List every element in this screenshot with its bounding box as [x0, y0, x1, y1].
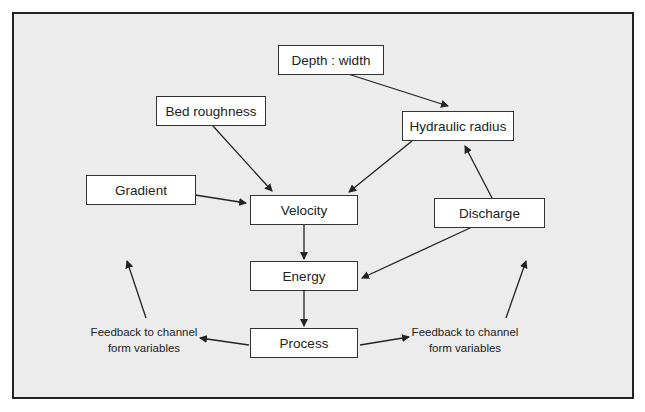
- arrow-gradient-to-velocity: [195, 195, 246, 203]
- node-discharge: Discharge: [434, 198, 545, 228]
- node-bed-roughness: Bed roughness: [156, 96, 266, 126]
- feedback-right-line1: Feedback to channel: [405, 324, 525, 340]
- arrow-roughness-to-velocity: [213, 126, 272, 191]
- arrow-feedback-left-up: [127, 261, 146, 318]
- node-hydraulic-radius: Hydraulic radius: [402, 111, 514, 141]
- node-depth-width: Depth : width: [278, 45, 384, 75]
- feedback-left-line2: form variables: [84, 340, 204, 356]
- arrow-process-to-feedback-left: [200, 338, 249, 345]
- feedback-right-label: Feedback to channel form variables: [405, 324, 525, 356]
- node-gradient: Gradient: [86, 175, 196, 205]
- feedback-right-line2: form variables: [405, 340, 525, 356]
- arrow-depth-to-hydraulic: [348, 74, 448, 106]
- node-velocity: Velocity: [250, 195, 358, 225]
- feedback-left-label: Feedback to channel form variables: [84, 324, 204, 356]
- arrow-process-to-feedback-right: [360, 337, 409, 345]
- arrow-feedback-right-up: [506, 261, 526, 318]
- feedback-left-line1: Feedback to channel: [84, 324, 204, 340]
- arrow-discharge-to-energy: [362, 228, 470, 278]
- node-energy: Energy: [250, 261, 358, 291]
- arrow-discharge-to-hydraulic: [465, 146, 492, 198]
- node-process: Process: [250, 328, 358, 358]
- arrow-hydraulic-to-velocity: [349, 141, 412, 192]
